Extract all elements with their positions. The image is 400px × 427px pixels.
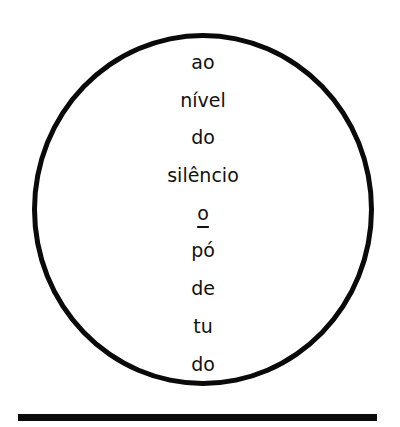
poem-line-underlined: o	[0, 195, 400, 233]
poem-line: pó	[0, 232, 400, 270]
poem-line: do	[0, 119, 400, 157]
poem-line: nível	[0, 82, 400, 120]
poem-line: ao	[0, 44, 400, 82]
poem: ao nível do silêncio o pó de tu do	[0, 44, 400, 383]
poem-line: do	[0, 346, 400, 384]
poem-line: silêncio	[0, 157, 400, 195]
underlined-word: o	[197, 202, 209, 224]
poem-line: de	[0, 270, 400, 308]
poem-line: tu	[0, 308, 400, 346]
horizontal-rule	[18, 414, 377, 421]
